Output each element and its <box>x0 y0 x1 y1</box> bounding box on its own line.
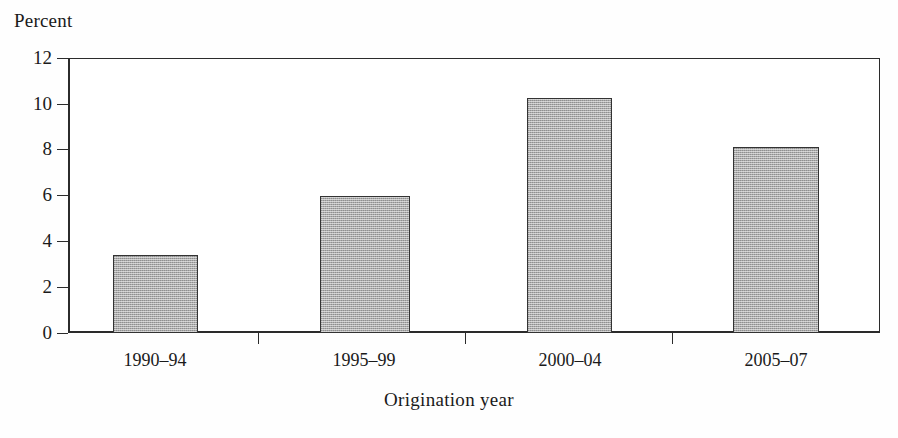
x-tick-mark-2 <box>465 333 466 344</box>
y-tick-label-6-text: 6 <box>6 185 52 204</box>
y-tick-mark-10 <box>57 104 68 105</box>
x-tick-label-1990-94: 1990–94 <box>124 349 187 371</box>
x-tick-label-2005-07: 2005–07 <box>745 349 808 371</box>
y-tick-label-4-text: 4 <box>6 231 52 250</box>
y-tick-mark-12 <box>57 58 68 59</box>
bar-2000-04 <box>527 98 612 333</box>
y-tick-mark-0 <box>57 333 68 334</box>
y-tick-label-2-text: 2 <box>6 277 52 296</box>
bar-2005-07 <box>733 147 819 333</box>
bar-1995-99 <box>320 196 410 333</box>
y-tick-mark-8 <box>57 149 68 150</box>
y-tick-mark-2 <box>57 287 68 288</box>
y-tick-label-12-text: 12 <box>6 48 52 67</box>
y-tick-label-8-text: 8 <box>6 139 52 158</box>
y-tick-mark-4 <box>57 241 68 242</box>
y-axis-unit-label: Percent <box>14 10 72 32</box>
x-axis-title: Origination year <box>0 388 898 412</box>
y-tick-mark-6 <box>57 195 68 196</box>
y-tick-label-10-text: 10 <box>6 94 52 113</box>
y-tick-label-0-text: 0 <box>6 323 52 342</box>
x-tick-mark-3 <box>672 333 673 344</box>
bar-chart-figure: Percent 12 10 8 6 4 2 0 1990–94 1995–99 … <box>0 0 898 438</box>
x-tick-label-1995-99: 1995–99 <box>333 349 396 371</box>
bar-1990-94 <box>113 255 198 333</box>
x-tick-mark-1 <box>258 333 259 344</box>
x-tick-label-2000-04: 2000–04 <box>539 349 602 371</box>
